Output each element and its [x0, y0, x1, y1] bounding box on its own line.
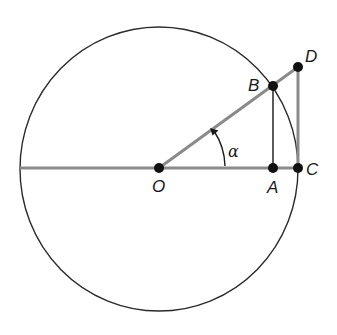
point-d — [293, 62, 303, 72]
point-o — [154, 163, 164, 173]
label-alpha: α — [228, 142, 239, 161]
point-c — [293, 163, 303, 173]
label-o: O — [152, 177, 165, 196]
label-d: D — [305, 47, 317, 66]
unit-circle-diagram: O A B C D α — [0, 0, 337, 335]
label-b: B — [248, 76, 259, 95]
label-a: A — [266, 178, 278, 197]
point-a — [268, 163, 278, 173]
label-c: C — [306, 160, 319, 179]
point-b — [268, 81, 278, 91]
angle-arc — [214, 131, 225, 166]
